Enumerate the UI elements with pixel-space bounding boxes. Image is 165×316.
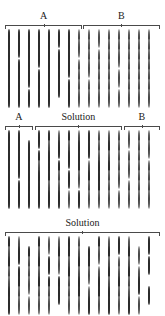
open-dot	[78, 296, 80, 315]
grid-cell	[28, 277, 38, 287]
grid-cell	[88, 267, 98, 277]
grid-cell	[58, 297, 68, 307]
grid-cell	[88, 297, 98, 307]
grid-cell	[128, 90, 138, 100]
grid-cell	[58, 30, 68, 40]
open-dot	[88, 190, 90, 209]
grid-cell	[138, 277, 148, 287]
grid-cell	[48, 237, 58, 247]
panel-bottom-label-row: Solution	[0, 217, 165, 231]
panel-bottom-label-1: Solution	[5, 217, 160, 229]
open-dot	[18, 296, 20, 315]
grid-cell	[138, 90, 148, 100]
filled-dot	[48, 190, 50, 209]
grid-cell	[38, 90, 48, 100]
grid-cell	[148, 237, 158, 247]
open-dot	[108, 190, 110, 209]
grid-cell	[18, 90, 28, 100]
grid-cell	[58, 80, 68, 90]
grid-cell	[18, 297, 28, 307]
panel-middle-grid	[8, 131, 158, 201]
open-dot	[98, 296, 100, 315]
grid-cell	[108, 191, 118, 201]
panel-middle-label-2: Solution	[35, 111, 122, 123]
filled-dot	[78, 190, 80, 209]
grid-cell	[38, 131, 48, 141]
grid-cell	[148, 287, 158, 297]
grid-cell	[18, 191, 28, 201]
grid-cell	[128, 191, 138, 201]
grid-cell	[148, 257, 158, 267]
grid-cell	[138, 247, 148, 257]
grid-cell	[78, 40, 88, 50]
panel-top-brace-1	[5, 25, 83, 29]
grid-cell	[68, 297, 78, 307]
open-dot	[38, 296, 40, 315]
grid-cell	[118, 237, 128, 247]
grid-cell	[98, 297, 108, 307]
open-dot	[138, 296, 140, 315]
grid-cell	[118, 50, 128, 60]
grid-cell	[98, 191, 108, 201]
grid-cell	[68, 171, 78, 181]
grid-cell	[88, 90, 98, 100]
grid-cell	[68, 60, 78, 70]
open-dot	[68, 190, 70, 209]
panel-bottom-brace-1	[5, 232, 160, 236]
grid-cell	[108, 297, 118, 307]
grid-cell	[78, 191, 88, 201]
grid-cell	[68, 191, 78, 201]
grid-cell	[48, 297, 58, 307]
grid-cell	[58, 141, 68, 151]
grid-cell	[78, 297, 88, 307]
grid-cell	[28, 90, 38, 100]
grid-cell	[18, 247, 28, 257]
grid-cell	[58, 191, 68, 201]
grid-cell	[88, 141, 98, 151]
panel-middle-label-1: A	[5, 111, 33, 123]
grid-cell	[118, 70, 128, 80]
grid-cell	[58, 257, 68, 267]
panel-middle-label-3: B	[124, 111, 160, 123]
grid-cell	[48, 257, 58, 267]
grid-cell	[88, 60, 98, 70]
grid-cell	[38, 50, 48, 60]
panel-bottom-grid	[8, 237, 158, 307]
grid-cell	[38, 297, 48, 307]
grid-cell	[68, 90, 78, 100]
grid-cell	[118, 191, 128, 201]
open-dot	[48, 296, 50, 315]
open-dot	[118, 190, 120, 209]
open-dot	[98, 190, 100, 209]
grid-cell	[18, 40, 28, 50]
grid-cell	[138, 297, 148, 307]
grid-cell	[98, 30, 108, 40]
grid-cell	[118, 90, 128, 100]
grid-cell	[148, 191, 158, 201]
grid-cell	[128, 297, 138, 307]
filled-dot	[58, 190, 60, 209]
grid-cell	[118, 171, 128, 181]
grid-cell	[18, 161, 28, 171]
grid-cell	[68, 151, 78, 161]
grid-cell	[8, 297, 18, 307]
filled-dot	[8, 190, 10, 209]
panel-middle: ASolutionB	[0, 105, 165, 201]
panel-top-grid	[8, 30, 158, 100]
grid-cell	[8, 90, 18, 100]
grid-cell	[88, 191, 98, 201]
grid-cell	[28, 70, 38, 80]
panel-top-label-2: B	[83, 10, 161, 22]
grid-cell	[148, 141, 158, 151]
panel-top: AB	[0, 0, 165, 100]
grid-cell	[8, 191, 18, 201]
grid-cell	[148, 297, 158, 307]
grid-cell	[108, 90, 118, 100]
filled-dot	[28, 190, 30, 209]
filled-dot	[128, 296, 130, 315]
open-dot	[68, 296, 70, 315]
grid-cell	[98, 90, 108, 100]
grid-cell	[78, 90, 88, 100]
figure-container: ABASolutionBSolution	[0, 0, 165, 316]
grid-cell	[148, 90, 158, 100]
